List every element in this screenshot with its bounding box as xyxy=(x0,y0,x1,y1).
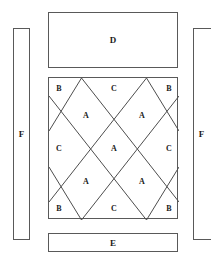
diagonal-line xyxy=(82,96,180,220)
tile-cell-label: B xyxy=(166,85,171,93)
panel-f-left: F xyxy=(13,28,30,240)
tile-cell-label: C xyxy=(56,145,62,153)
tile-cell-label: B xyxy=(56,205,61,213)
panel-e-label: E xyxy=(49,238,177,247)
diagonal-line xyxy=(147,167,180,220)
diagonal-line xyxy=(49,96,147,220)
tile-cell-label: C xyxy=(111,85,117,93)
diagonal-line xyxy=(82,78,180,202)
tile-cell-label: A xyxy=(111,145,117,153)
diagonal-line xyxy=(49,167,82,220)
tile-cell-label: A xyxy=(83,178,89,186)
tile-cell-label: A xyxy=(83,112,89,120)
tile-cell-label: B xyxy=(56,85,61,93)
panel-f-right: F xyxy=(193,28,211,240)
tile-cell-label: B xyxy=(166,205,171,213)
panel-d-label: D xyxy=(49,36,177,45)
panel-e: E xyxy=(48,233,178,252)
tile-cell-label: C xyxy=(166,145,172,153)
tile-square: BCBAACACAABCB xyxy=(48,77,178,219)
diagonal-line xyxy=(49,78,82,131)
panel-d: D xyxy=(48,12,178,68)
diagonal-line xyxy=(49,78,147,202)
tile-cell-label: A xyxy=(139,112,145,120)
diagonal-line xyxy=(147,78,180,131)
panel-f-left-label: F xyxy=(14,130,29,139)
panel-f-right-label: F xyxy=(194,130,209,139)
diagram-canvas: D F F BCBAACACAABCB E xyxy=(0,0,211,264)
tile-cell-label: C xyxy=(111,205,117,213)
tile-cell-label: A xyxy=(139,178,145,186)
